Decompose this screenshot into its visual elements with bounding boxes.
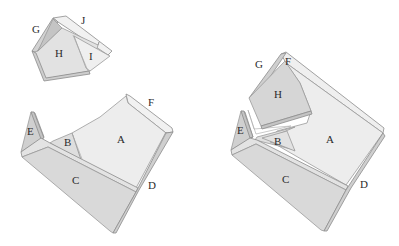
label-c: C bbox=[72, 174, 79, 186]
left-top-piece: G J H I bbox=[32, 14, 112, 81]
label-h: H bbox=[274, 88, 282, 100]
label-d: D bbox=[148, 179, 156, 191]
label-e: E bbox=[27, 125, 34, 137]
label-b: B bbox=[64, 136, 71, 148]
label-f: F bbox=[148, 96, 154, 108]
label-d: D bbox=[360, 178, 368, 190]
label-f: F bbox=[285, 55, 291, 67]
right-assembled-piece: G F H E B A C D bbox=[231, 52, 385, 231]
label-c: C bbox=[282, 173, 289, 185]
label-g: G bbox=[32, 23, 40, 35]
label-e: E bbox=[237, 124, 244, 136]
label-b: B bbox=[274, 135, 281, 147]
label-g: G bbox=[255, 58, 263, 70]
label-i: I bbox=[89, 50, 93, 62]
label-j: J bbox=[81, 14, 86, 26]
label-a: A bbox=[326, 133, 334, 145]
left-bottom-piece: F A E B C D bbox=[21, 94, 173, 233]
origami-fold-diagram: G J H I F A E B C D bbox=[0, 0, 399, 246]
label-h: H bbox=[55, 47, 63, 59]
label-a: A bbox=[117, 133, 125, 145]
